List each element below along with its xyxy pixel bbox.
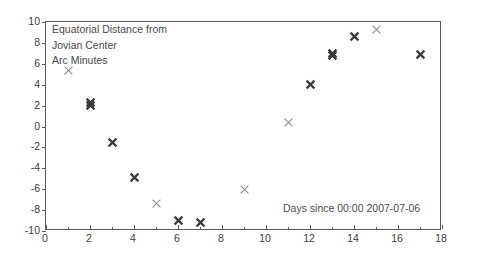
y-tick-label: -6	[8, 183, 40, 193]
data-point	[151, 198, 162, 209]
x-tick-label: 2	[74, 233, 104, 244]
data-point	[371, 24, 382, 35]
x-tick	[178, 225, 179, 229]
data-point	[239, 184, 250, 195]
x-tick	[46, 225, 47, 229]
y-tick	[42, 210, 46, 211]
x-tick-minor	[112, 227, 113, 229]
x-tick	[398, 225, 399, 229]
data-point	[129, 172, 140, 183]
y-tick	[42, 85, 46, 86]
x-tick-minor	[68, 227, 69, 229]
x-tick	[354, 225, 355, 229]
x-tick	[310, 225, 311, 229]
y-tick	[42, 189, 46, 190]
x-tick-label: 6	[162, 233, 192, 244]
x-tick	[222, 225, 223, 229]
x-tick-label: 14	[338, 233, 368, 244]
x-tick-minor	[156, 227, 157, 229]
x-tick-minor	[376, 227, 377, 229]
data-point	[107, 137, 118, 148]
y-tick	[42, 127, 46, 128]
y-tick-label: 0	[8, 121, 40, 131]
data-point	[327, 50, 338, 61]
y-tick-label: 2	[8, 100, 40, 110]
x-tick-minor	[332, 227, 333, 229]
y-axis-title-line-2: Arc Minutes	[52, 53, 167, 69]
y-tick-label: 6	[8, 58, 40, 68]
y-tick	[42, 168, 46, 169]
data-point	[283, 117, 294, 128]
data-point	[85, 100, 96, 111]
x-tick-minor	[288, 227, 289, 229]
y-tick-label: 10	[8, 16, 40, 26]
x-tick-label: 0	[30, 233, 60, 244]
x-tick-label: 10	[250, 233, 280, 244]
y-tick	[42, 64, 46, 65]
x-tick-minor	[420, 227, 421, 229]
y-tick-label: -2	[8, 141, 40, 151]
data-point	[305, 79, 316, 90]
x-tick-label: 16	[382, 233, 412, 244]
x-tick	[442, 225, 443, 229]
y-axis-title-line-1: Jovian Center	[52, 38, 167, 54]
y-tick	[42, 43, 46, 44]
x-tick-label: 4	[118, 233, 148, 244]
y-tick	[42, 22, 46, 23]
x-tick	[90, 225, 91, 229]
x-tick-minor	[244, 227, 245, 229]
x-tick-minor	[200, 227, 201, 229]
y-tick-label: 8	[8, 37, 40, 47]
y-tick-label: 4	[8, 79, 40, 89]
y-axis-title: Equatorial Distance fromJovian CenterArc…	[52, 22, 167, 69]
x-tick-label: 12	[294, 233, 324, 244]
y-tick	[42, 147, 46, 148]
x-tick-label: 8	[206, 233, 236, 244]
y-axis-title-line-0: Equatorial Distance from	[52, 22, 167, 38]
data-point	[415, 49, 426, 60]
scatter-plot-figure: 1086420-2-4-6-8-10 024681012141618 Equat…	[0, 0, 477, 263]
data-point	[349, 31, 360, 42]
x-axis-caption: Days since 00:00 2007-07-06	[283, 203, 420, 214]
data-point	[327, 48, 338, 59]
x-tick	[134, 225, 135, 229]
x-tick-label: 18	[426, 233, 456, 244]
y-tick	[42, 106, 46, 107]
data-point	[85, 97, 96, 108]
x-tick	[266, 225, 267, 229]
y-tick-label: -4	[8, 162, 40, 172]
y-tick-label: -8	[8, 204, 40, 214]
